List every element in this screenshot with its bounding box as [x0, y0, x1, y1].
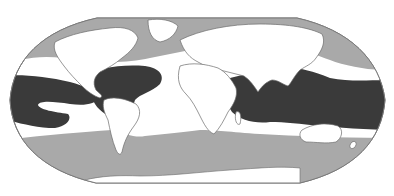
world-map-svg	[0, 0, 394, 196]
madagascar	[235, 112, 240, 125]
world-map	[0, 0, 394, 196]
